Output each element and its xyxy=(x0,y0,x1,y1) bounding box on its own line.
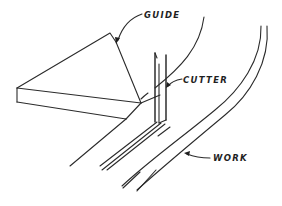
guide-arrow-icon xyxy=(115,37,120,44)
work-label-group: WORK xyxy=(184,151,248,163)
track-line-1 xyxy=(70,119,126,166)
cutter-label: CUTTER xyxy=(183,75,228,85)
cutter-bottom xyxy=(159,120,166,123)
cutter-label-group: CUTTER xyxy=(166,75,228,88)
guide-front-bottom-edge xyxy=(17,102,126,119)
guide-top-face xyxy=(17,33,141,103)
track-line-3 xyxy=(100,122,157,166)
work-edge-outer xyxy=(137,26,267,190)
cutter-guide-diagram: GUIDE CUTTER WORK xyxy=(0,0,282,206)
work-base-line-2 xyxy=(137,170,156,191)
cutter-arrow-icon xyxy=(166,82,171,88)
work-arrow-icon xyxy=(184,151,190,156)
work-base-line-1 xyxy=(123,172,140,188)
guide-label-group: GUIDE xyxy=(115,10,180,44)
guide-leader-line xyxy=(118,14,142,40)
guide-front-top-edge xyxy=(17,88,141,103)
guide-label: GUIDE xyxy=(144,10,180,20)
guide-right-edge xyxy=(126,103,141,119)
guide-curve-lower xyxy=(141,93,148,99)
work-piece xyxy=(122,26,267,190)
work-leader-line xyxy=(187,154,210,158)
work-label: WORK xyxy=(213,153,248,163)
guide-block xyxy=(17,33,141,119)
track-line-4 xyxy=(102,123,161,170)
track-line-5 xyxy=(107,124,165,170)
cutter-blade xyxy=(155,53,166,123)
